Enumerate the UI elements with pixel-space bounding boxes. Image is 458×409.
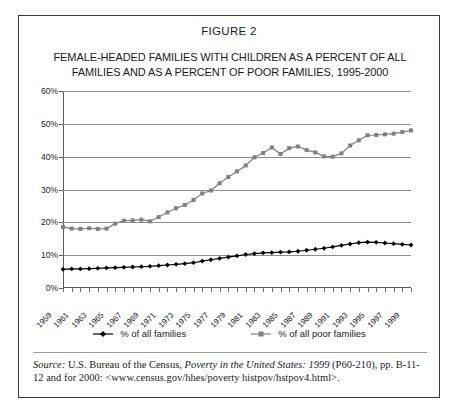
series-marker (392, 132, 396, 136)
legend-square-marker-icon (250, 329, 272, 339)
x-axis-tick-label: 1993 (331, 311, 350, 330)
figure-label: FIGURE 2 (19, 25, 439, 37)
x-axis-tick-label: 1961 (52, 311, 71, 330)
figure-title-line-1: FEMALE-HEADED FAMILIES WITH CHILDREN AS … (53, 51, 406, 63)
series-marker (78, 267, 83, 272)
source-note: Source: U.S. Bureau of the Census, Pover… (33, 358, 429, 384)
x-axis-tick-mark (98, 288, 99, 292)
series-marker (191, 260, 196, 265)
x-axis-tick-mark (385, 288, 386, 292)
series-marker (235, 253, 240, 258)
legend-entry[interactable]: % of all poor families (250, 328, 366, 339)
x-axis-tick-mark (115, 288, 116, 292)
series-marker (139, 264, 144, 269)
series-marker (287, 146, 291, 150)
series-marker (409, 128, 413, 132)
x-axis-tick-label: 1969 (122, 311, 141, 330)
series-marker (356, 240, 361, 245)
series-marker (61, 267, 66, 272)
series-marker (365, 240, 370, 245)
series-marker (409, 243, 414, 248)
series-marker (183, 203, 187, 207)
x-axis-tick-label: 1959 (35, 311, 54, 330)
legend-entry[interactable]: % of all families (92, 328, 186, 339)
series-marker (366, 133, 370, 137)
series-marker (252, 155, 256, 159)
series-marker (226, 175, 230, 179)
series-marker (192, 198, 196, 202)
x-axis-tick-mark (307, 288, 308, 292)
x-axis-tick-mark (107, 288, 108, 292)
chart-series-layer (63, 91, 411, 288)
x-axis-tick-label: 1967 (104, 311, 123, 330)
x-axis-tick-mark (254, 288, 255, 292)
series-marker (61, 225, 65, 229)
x-axis-tick-label: 1981 (226, 311, 245, 330)
series-marker (383, 132, 387, 136)
series-marker (313, 247, 318, 252)
y-axis-tick-label: 40% (41, 152, 58, 162)
series-marker (165, 263, 170, 268)
x-axis-tick-mark (72, 288, 73, 292)
series-marker (174, 206, 178, 210)
x-axis-tick-label: 1973 (157, 311, 176, 330)
x-axis-tick-mark (141, 288, 142, 292)
x-axis-tick-mark (333, 288, 334, 292)
figure-title-line-2: FAMILIES AND AS A PERCENT OF POOR FAMILI… (72, 66, 389, 78)
series-marker (339, 151, 343, 155)
series-marker (348, 242, 353, 247)
x-axis-tick-mark (324, 288, 325, 292)
series-marker (209, 257, 214, 262)
series-marker (374, 133, 378, 137)
series-line (63, 130, 411, 229)
figure-frame: FIGURE 2 FEMALE-HEADED FAMILIES WITH CHI… (18, 15, 440, 398)
series-marker (174, 262, 179, 267)
series-marker (304, 248, 309, 253)
x-axis-tick-mark (341, 288, 342, 292)
legend-label: % of all families (120, 328, 186, 339)
series-marker (87, 266, 92, 271)
series-marker (269, 250, 274, 255)
series-marker (322, 246, 327, 251)
x-axis-tick-mark (159, 288, 160, 292)
series-marker (218, 181, 222, 185)
series-marker (383, 241, 388, 246)
series-marker (244, 164, 248, 168)
x-axis-tick-label: 1989 (296, 311, 315, 330)
series-marker (130, 265, 135, 270)
series-marker (322, 154, 326, 158)
x-axis-tick-mark (220, 288, 221, 292)
y-axis-tick-label: 60% (41, 86, 58, 96)
series-marker (131, 218, 135, 222)
x-axis-tick-label: 1999 (383, 311, 402, 330)
series-marker (296, 144, 300, 148)
x-axis-tick-label: 1979 (209, 311, 228, 330)
series-marker (157, 215, 161, 219)
x-axis-tick-mark (194, 288, 195, 292)
source-text-before: U.S. Bureau of the Census, (65, 359, 184, 370)
series-marker (252, 251, 257, 256)
x-axis-tick-mark (124, 288, 125, 292)
series-marker (95, 266, 100, 271)
series-marker (226, 255, 231, 260)
legend-diamond-marker-icon (92, 329, 114, 339)
x-axis-tick-mark (263, 288, 264, 292)
y-axis-tick-label: 20% (41, 217, 58, 227)
series-marker (217, 256, 222, 261)
x-axis-tick-mark (315, 288, 316, 292)
series-marker (400, 242, 405, 247)
x-axis-tick-label: 1991 (313, 311, 332, 330)
figure-title: FEMALE-HEADED FAMILIES WITH CHILDREN AS … (31, 50, 429, 80)
series-marker (165, 210, 169, 214)
series-marker (122, 265, 127, 270)
series-marker (278, 250, 283, 255)
x-axis-tick-label: 1983 (244, 311, 263, 330)
series-marker (87, 226, 91, 230)
x-axis-tick-mark (211, 288, 212, 292)
series-marker (113, 265, 118, 270)
x-axis-tick-label: 1963 (70, 311, 89, 330)
x-axis-tick-mark (272, 288, 273, 292)
series-marker (96, 227, 100, 231)
series-marker (105, 227, 109, 231)
x-axis-tick-mark (237, 288, 238, 292)
